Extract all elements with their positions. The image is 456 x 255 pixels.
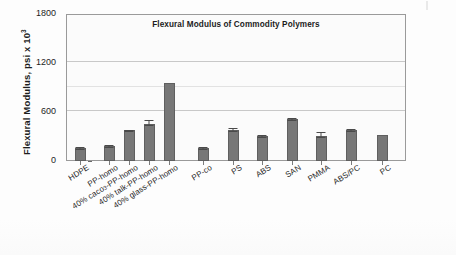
x-tick-label: ABS [254, 163, 273, 179]
y-axis-ticks: 060012001800 [26, 14, 62, 161]
bar [316, 136, 327, 161]
error-bar-cap-bottom [258, 137, 267, 138]
error-bar-cap-bottom [125, 131, 134, 132]
x-tick-label: PC [378, 163, 392, 177]
error-bar-cap-bottom [199, 149, 208, 150]
bar [377, 135, 388, 161]
bar [164, 83, 175, 161]
bar-slot [222, 14, 244, 161]
y-tick-mark-0 [88, 161, 92, 162]
error-bar-cap-bottom [347, 131, 356, 132]
bar [346, 130, 357, 161]
bar [124, 130, 135, 161]
error-bar-cap-top [105, 145, 114, 146]
bar-slot [158, 14, 180, 161]
bar-slot [138, 14, 160, 161]
bar [75, 148, 86, 161]
x-tick-label: PP-co [190, 163, 214, 182]
bar-slot [98, 14, 120, 161]
bar [144, 124, 155, 161]
error-bar [129, 130, 130, 133]
bar-slot [251, 14, 273, 161]
error-bar-cap-bottom [145, 125, 154, 126]
error-bar [233, 128, 234, 132]
error-bar-cap-bottom [229, 131, 238, 132]
bar-slot [310, 14, 332, 161]
bar-slot [69, 14, 91, 161]
error-bar [149, 120, 150, 126]
error-bar [292, 118, 293, 120]
error-bar-cap-top [199, 147, 208, 148]
error-bar [203, 147, 204, 150]
bar-slot [118, 14, 140, 161]
bar-slot [281, 14, 303, 161]
error-bar-cap-top [258, 135, 267, 136]
error-bar-cap-bottom [76, 149, 85, 150]
scan-artifact [426, 1, 428, 10]
bar-slot [371, 14, 393, 161]
error-bar-cap-top [347, 129, 356, 130]
x-tick-label: ABS/PC [332, 163, 362, 187]
bar [198, 148, 209, 161]
error-bar-cap-top [317, 132, 326, 133]
bar [104, 146, 115, 161]
chart-figure: Flexural Modulus, psi x 103 060012001800… [0, 0, 456, 255]
error-bar-cap-bottom [317, 137, 326, 138]
error-bar-cap-top [76, 147, 85, 148]
error-bar [80, 147, 81, 150]
error-bar [109, 145, 110, 148]
x-tick-label: PMMA [306, 163, 331, 184]
error-bar [321, 132, 322, 137]
x-tick-label: SAN [284, 163, 303, 180]
error-bar-cap-top [145, 120, 154, 121]
error-bar-cap-top [125, 130, 134, 131]
x-axis-labels: HDPEPP-homo40% caco3-PP-homo40% talk-PP-… [66, 163, 406, 243]
error-bar [262, 135, 263, 138]
error-bar [351, 129, 352, 132]
error-bar-cap-top [229, 128, 238, 129]
bar [228, 130, 239, 161]
bar [287, 119, 298, 161]
bar [257, 136, 268, 161]
bar-slot [192, 14, 214, 161]
bar-slot [340, 14, 362, 161]
error-bar-cap-bottom [105, 147, 114, 148]
x-tick-label: PS [230, 163, 244, 176]
bar-series [66, 14, 406, 161]
error-bar-cap-bottom [288, 120, 297, 121]
